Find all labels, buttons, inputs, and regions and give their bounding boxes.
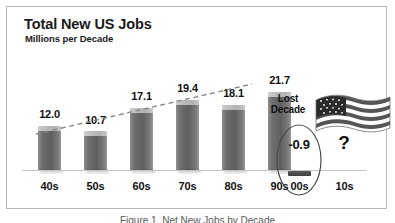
us-flag-icon <box>316 92 392 136</box>
value-label-60s: 17.1 <box>120 90 163 102</box>
bar-00s-negative <box>288 171 311 176</box>
lost-decade-line2: Decade <box>271 104 305 115</box>
category-label-70s: 70s <box>166 180 209 192</box>
bar-cap <box>222 105 245 110</box>
category-label-50s: 50s <box>74 180 117 192</box>
value-label-50s: 10.7 <box>74 114 117 126</box>
bar-80s <box>222 105 245 170</box>
bar-cap <box>84 131 107 136</box>
value-label-40s: 12.0 <box>28 108 71 120</box>
value-label-90s: 21.7 <box>258 74 301 86</box>
bar-40s <box>38 126 61 170</box>
bar-70s <box>176 100 199 170</box>
bar-cap <box>176 100 199 105</box>
bar-60s <box>130 108 153 170</box>
category-label-80s: 80s <box>212 180 255 192</box>
bar-cap <box>38 126 61 131</box>
bar-chart-plot-area: 12.0 10.7 17.1 19.4 18.1 21.7 40s 50s 60… <box>0 0 395 223</box>
value-label-10s: ? <box>330 132 358 154</box>
slide-image: Total New US Jobs Millions per Decade <box>0 0 395 223</box>
bar-cap <box>130 108 153 113</box>
axis-baseline <box>22 170 367 171</box>
category-label-60s: 60s <box>120 180 163 192</box>
value-label-00s: -0.9 <box>276 137 322 152</box>
category-label-10s: 10s <box>323 180 366 192</box>
lost-decade-annotation: Lost Decade <box>262 93 314 115</box>
bar-50s <box>84 131 107 170</box>
figure-caption: Figure 1. Net New Jobs by Decade <box>0 215 395 223</box>
value-label-70s: 19.4 <box>166 82 209 94</box>
value-label-80s: 18.1 <box>212 87 255 99</box>
category-label-00s: 00s <box>278 180 321 192</box>
lost-decade-line1: Lost <box>278 93 298 104</box>
category-label-40s: 40s <box>28 180 71 192</box>
